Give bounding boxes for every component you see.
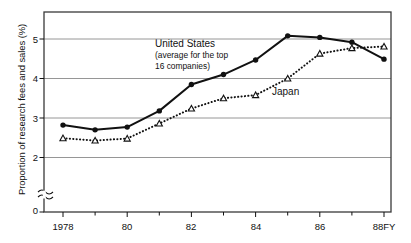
chart-figure: Proportion of research fees and sales (%… <box>0 0 411 243</box>
plot-area <box>0 0 411 243</box>
plot-frame <box>44 12 391 212</box>
axis-break-symbol <box>38 190 53 199</box>
axis-ticks <box>40 39 385 217</box>
